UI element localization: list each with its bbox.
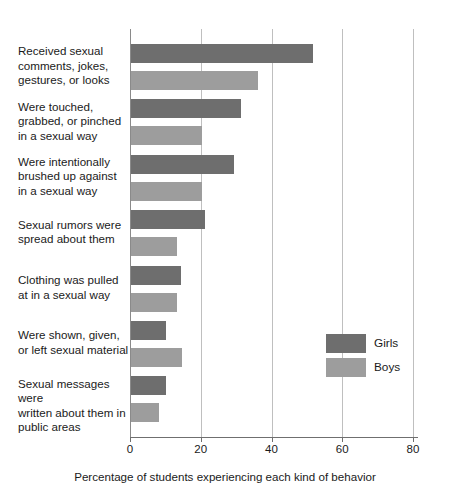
- gridline-20: [201, 29, 202, 437]
- gridline-80: [413, 29, 414, 437]
- x-axis-title: Percentage of students experiencing each…: [0, 470, 450, 483]
- tick-label-0: 0: [127, 443, 133, 455]
- category-label-line: Were touched,: [18, 100, 130, 115]
- category-label-line: Were shown, given,: [18, 328, 130, 343]
- tick-label-80: 80: [407, 443, 420, 455]
- bar-boys-6: [131, 403, 159, 422]
- bar-girls-4: [131, 266, 181, 285]
- category-label-line: in a sexual way: [18, 184, 130, 199]
- x-axis-line: [130, 437, 418, 438]
- category-label-2: Were intentionallybrushed up againstin a…: [18, 155, 130, 199]
- tick-mark-0: [130, 437, 131, 442]
- bar-girls-3: [131, 210, 205, 229]
- legend-swatch-boys: [326, 358, 366, 377]
- category-label-4: Clothing was pulledat in a sexual way: [18, 273, 130, 302]
- category-label-line: Sexual rumors were: [18, 218, 130, 233]
- tick-mark-20: [201, 437, 202, 442]
- tick-mark-60: [342, 437, 343, 442]
- category-label-line: Sexual messages were: [18, 377, 130, 406]
- category-label-line: Received sexual: [18, 44, 130, 59]
- category-label-6: Sexual messages werewritten about them i…: [18, 377, 130, 435]
- bar-boys-3: [131, 237, 177, 256]
- category-label-0: Received sexualcomments, jokes,gestures,…: [18, 44, 130, 88]
- tick-label-40: 40: [265, 443, 278, 455]
- category-label-3: Sexual rumors werespread about them: [18, 218, 130, 247]
- category-label-line: grabbed, or pinched: [18, 114, 130, 129]
- category-label-line: public areas: [18, 420, 130, 435]
- tick-label-20: 20: [194, 443, 207, 455]
- category-label-line: or left sexual material: [18, 343, 130, 358]
- bar-girls-6: [131, 376, 166, 395]
- bar-girls-1: [131, 99, 241, 118]
- category-label-line: brushed up against: [18, 169, 130, 184]
- plot-area: [130, 29, 413, 437]
- category-label-5: Were shown, given,or left sexual materia…: [18, 328, 130, 357]
- category-label-line: Clothing was pulled: [18, 273, 130, 288]
- gridline-40: [272, 29, 273, 437]
- bar-boys-1: [131, 126, 202, 145]
- bar-girls-0: [131, 44, 313, 63]
- category-label-1: Were touched,grabbed, or pinchedin a sex…: [18, 100, 130, 144]
- tick-mark-80: [413, 437, 414, 442]
- legend-label-boys: Boys: [374, 360, 400, 374]
- bar-boys-2: [131, 182, 202, 201]
- category-label-line: in a sexual way: [18, 129, 130, 144]
- category-label-line: comments, jokes,: [18, 59, 130, 74]
- category-label-line: written about them in: [18, 406, 130, 421]
- category-label-line: at in a sexual way: [18, 288, 130, 303]
- y-axis-line: [130, 29, 131, 438]
- legend-swatch-girls: [326, 334, 366, 353]
- bar-boys-4: [131, 293, 177, 312]
- category-label-line: spread about them: [18, 232, 130, 247]
- legend-label-girls: Girls: [374, 336, 398, 350]
- bar-boys-5: [131, 348, 182, 367]
- tick-label-60: 60: [336, 443, 349, 455]
- category-label-line: gestures, or looks: [18, 73, 130, 88]
- bar-chart: 020406080 Received sexualcomments, jokes…: [0, 0, 450, 495]
- category-label-line: Were intentionally: [18, 155, 130, 170]
- bar-boys-0: [131, 71, 258, 90]
- bar-girls-2: [131, 155, 234, 174]
- bar-girls-5: [131, 321, 166, 340]
- tick-mark-40: [272, 437, 273, 442]
